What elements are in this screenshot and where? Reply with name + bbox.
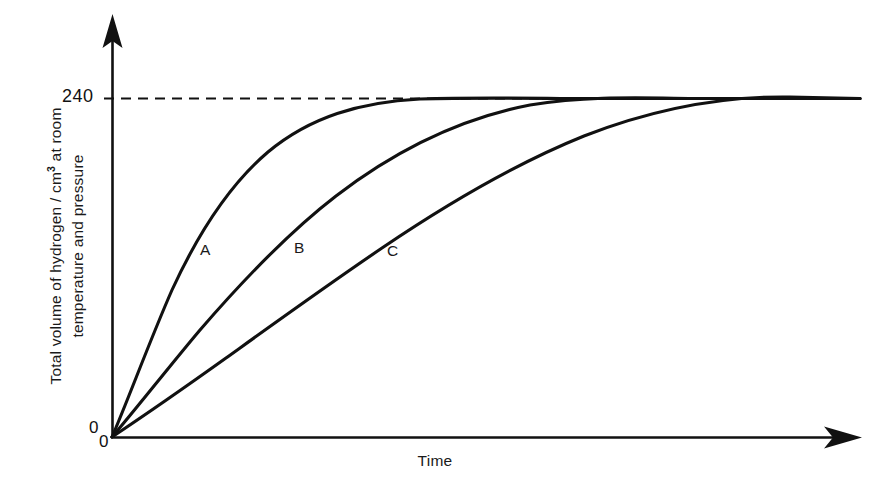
curve-a bbox=[112, 98, 860, 437]
plot-area bbox=[0, 0, 878, 494]
y-axis-origin-label: 0 bbox=[89, 418, 98, 438]
curve-label-a: A bbox=[200, 241, 210, 259]
x-axis-origin-label: 0 bbox=[99, 432, 108, 452]
y-axis-tick-240: 240 bbox=[62, 86, 94, 107]
curve-label-b: B bbox=[294, 239, 304, 257]
x-axis-title: Time bbox=[390, 452, 480, 470]
reaction-volume-chart: Total volume of hydrogen / cm3 at room t… bbox=[0, 0, 878, 494]
curve-label-c: C bbox=[387, 242, 398, 260]
curve-c bbox=[112, 97, 860, 437]
curve-b bbox=[112, 98, 860, 437]
